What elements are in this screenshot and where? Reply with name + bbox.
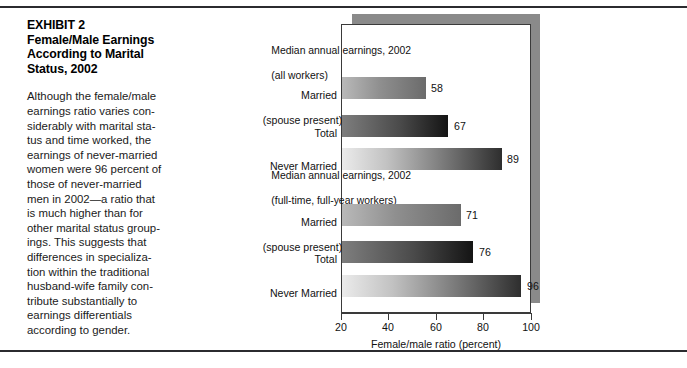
x-axis-tick	[388, 313, 389, 320]
x-axis-tick	[436, 313, 437, 320]
body-line: siderably with marital sta-	[27, 119, 223, 134]
heading-line: EXHIBIT 2	[27, 18, 223, 33]
category-label-total: Total	[245, 115, 337, 152]
bar-value-all-married: 58	[431, 77, 443, 99]
bar-value-all-never-married: 89	[507, 148, 519, 170]
body-line: husband-wife family con-	[27, 279, 223, 294]
body-line: tus and time worked, the	[27, 133, 223, 148]
body-line: earnings of never-married	[27, 148, 223, 163]
heading-line: Female/Male Earnings	[27, 33, 223, 48]
x-axis-tick	[341, 313, 342, 320]
body-line: is much higher than for	[27, 206, 223, 221]
category-label-never-married: Never Married	[245, 148, 337, 185]
chart: Median annual earnings, 2002 (all worker…	[245, 10, 675, 355]
body-line: ings. This suggests that	[27, 235, 223, 250]
bar-value-ft-never-married: 96	[527, 275, 539, 297]
x-axis-tick	[531, 313, 532, 320]
x-axis-tick	[483, 313, 484, 320]
body-line: women were 96 percent of	[27, 162, 223, 177]
x-axis-title: Female/male ratio (percent)	[341, 338, 531, 350]
category-label-line1: Total	[315, 127, 337, 139]
x-axis-tick-label: 60	[430, 321, 442, 333]
bottom-rule	[0, 350, 687, 352]
category-label-line1: Total	[315, 253, 337, 265]
exhibit-body-text: Although the female/male earnings ratio …	[27, 89, 223, 337]
body-line: those of never-married	[27, 177, 223, 192]
x-axis-tick-label: 80	[477, 321, 489, 333]
body-line: Although the female/male	[27, 89, 223, 104]
category-label-line1: Never Married	[270, 287, 337, 299]
category-label-line1: Married	[301, 216, 337, 228]
bar-all-married-spouse-present	[342, 77, 426, 99]
body-line: according to gender.	[27, 323, 223, 338]
exhibit-container: EXHIBIT 2 Female/Male Earnings According…	[0, 0, 687, 368]
bar-ft-total	[342, 241, 473, 263]
category-label-ft-never-married: Never Married	[245, 275, 337, 312]
exhibit-text-column: EXHIBIT 2 Female/Male Earnings According…	[27, 18, 223, 337]
bar-value-ft-total: 76	[479, 241, 491, 263]
body-line: other marital status group-	[27, 221, 223, 236]
caption-line: Median annual earnings, 2002	[271, 45, 411, 56]
bar-all-never-married	[342, 148, 502, 170]
exhibit-heading: EXHIBIT 2 Female/Male Earnings According…	[27, 18, 223, 76]
body-line: men in 2002—a ratio that	[27, 192, 223, 207]
body-line: earnings differentials	[27, 308, 223, 323]
body-line: differences in specializa-	[27, 250, 223, 265]
x-axis-tick-label: 100	[522, 321, 540, 333]
body-line: tion within the traditional	[27, 265, 223, 280]
bar-all-total	[342, 115, 448, 137]
body-line: earnings ratio varies con-	[27, 104, 223, 119]
bar-ft-never-married	[342, 275, 521, 297]
bar-value-all-total: 67	[454, 115, 466, 137]
category-label-line1: Never Married	[270, 160, 337, 172]
body-line: tribute substantially to	[27, 294, 223, 309]
category-label-ft-total: Total	[245, 241, 337, 278]
x-axis-tick-label: 20	[335, 321, 347, 333]
heading-line: Status, 2002	[27, 62, 223, 77]
bar-ft-married-spouse-present	[342, 204, 461, 226]
x-axis-tick-label: 40	[382, 321, 394, 333]
top-rule	[0, 6, 687, 8]
heading-line: According to Marital	[27, 47, 223, 62]
bar-value-ft-married: 71	[466, 204, 478, 226]
category-label-line1: Married	[301, 89, 337, 101]
